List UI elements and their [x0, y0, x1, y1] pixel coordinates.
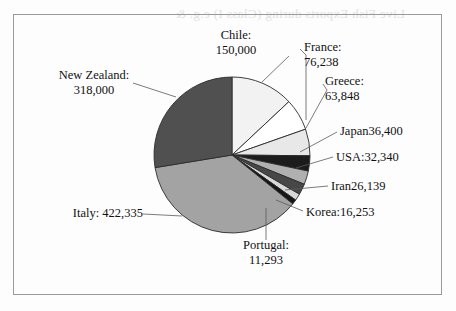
leader-line-greece — [306, 84, 327, 128]
pie-label-portugal: Portugal: 11,293 — [224, 238, 308, 267]
pie-label-france: France: 76,238 — [304, 40, 341, 69]
chart-page: Live Fish Exports during (Class I) e.g. … — [0, 0, 456, 311]
pie-label-iran: Iran26,139 — [331, 179, 386, 194]
pie-label-new-zealand: New Zealand: 318,000 — [53, 68, 135, 97]
pie-label-korea: Korea:16,253 — [306, 205, 374, 220]
pie-label-italy: Italy: 422,335 — [43, 206, 143, 221]
leader-line-chile — [262, 56, 289, 82]
pie-slices — [154, 77, 310, 233]
pie-label-usa: USA:32,340 — [336, 150, 399, 165]
leader-line-italy — [143, 214, 182, 216]
pie-slice-new-zealand — [154, 77, 232, 168]
pie-label-chile: Chile: 150,000 — [200, 28, 272, 57]
pie-label-japan: Japan36,400 — [340, 124, 403, 139]
leader-line-new-zealand — [133, 83, 176, 97]
pie-label-greece: Greece: 63,848 — [325, 74, 364, 103]
pie-chart: Chile: 150,000 France: 76,238 Greece: 63… — [0, 0, 456, 311]
